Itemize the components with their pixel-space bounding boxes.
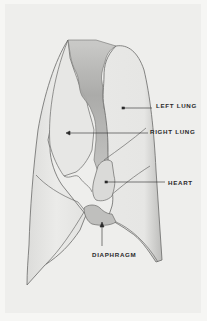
- left-lung-dot: [122, 107, 125, 109]
- diagram-page: LEFT LUNG RIGHT LUNG HEART DIAPHRAGM: [0, 0, 207, 321]
- heart-dot: [105, 181, 108, 183]
- anatomy-drawing: [0, 0, 207, 321]
- label-right-lung: RIGHT LUNG: [150, 128, 196, 135]
- left-lung-shape: [103, 46, 162, 262]
- label-diaphragm: DIAPHRAGM: [92, 251, 136, 258]
- label-left-lung: LEFT LUNG: [156, 102, 197, 109]
- label-heart: HEART: [168, 179, 193, 186]
